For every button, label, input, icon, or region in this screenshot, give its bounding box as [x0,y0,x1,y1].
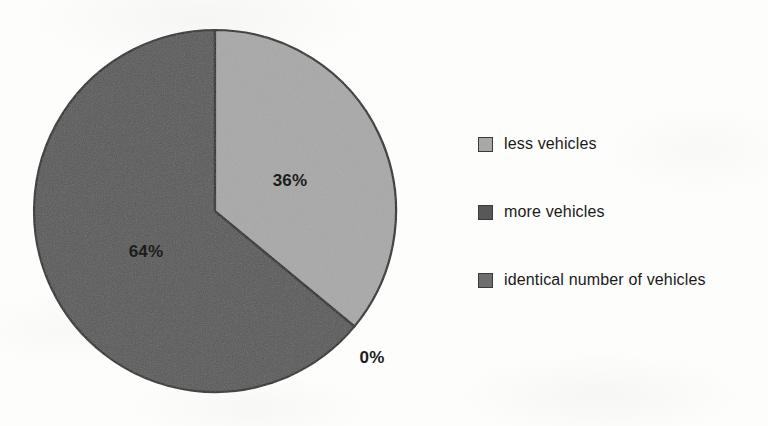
legend-label-more-vehicles: more vehicles [504,204,605,220]
pie-slice-value-more-vehicles: 64% [129,242,164,262]
legend-item-more-vehicles[interactable]: more vehicles [478,200,764,224]
legend-item-identical-number-of-vehicles[interactable]: identical number of vehicles [478,268,764,292]
legend-swatch-icon-identical-number-of-vehicles [478,273,493,288]
legend-swatch-icon-less-vehicles [478,137,493,152]
legend-label-less-vehicles: less vehicles [504,136,597,152]
chart-legend: less vehicles more vehicles identical nu… [478,132,764,292]
chart-page: 36% 64% 0% less vehicles more vehicles i… [0,0,768,426]
legend-item-less-vehicles[interactable]: less vehicles [478,132,764,156]
legend-swatch-icon-more-vehicles [478,205,493,220]
pie-slice-value-less-vehicles: 36% [273,171,308,191]
pie-slice-value-identical-number-of-vehicles: 0% [360,348,385,368]
legend-label-identical-number-of-vehicles: identical number of vehicles [504,272,706,288]
